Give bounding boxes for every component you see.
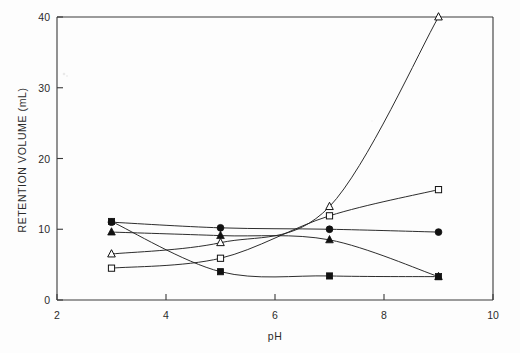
x-tick-label-6: 6	[272, 309, 278, 321]
data-point-filled-square-ph7	[326, 273, 332, 279]
data-point-filled-circle-ph5	[217, 224, 224, 231]
data-point-filled-circle-ph9	[435, 229, 442, 236]
data-point-open-square-ph3	[108, 265, 114, 271]
x-tick-label-2: 2	[54, 309, 60, 321]
y-tick-label-30: 30	[38, 82, 50, 94]
x-tick-label-4: 4	[163, 309, 169, 321]
y-tick-label-20: 20	[38, 153, 50, 165]
data-point-filled-circle-ph7	[326, 226, 333, 233]
x-tick-label-10: 10	[487, 309, 499, 321]
data-point-open-square-ph5	[217, 255, 223, 261]
y-axis-title: RETENTION VOLUME (mL)	[16, 87, 28, 232]
x-axis-title: pH	[268, 330, 283, 342]
data-point-open-square-ph9	[435, 187, 441, 193]
x-tick-label-8: 8	[381, 309, 387, 321]
data-point-filled-square-ph3	[108, 218, 114, 224]
y-tick-label-10: 10	[38, 223, 50, 235]
chart-figure: 0 10 20 30 40 2 4 6 8 10 pH RETENTION VO…	[0, 0, 520, 353]
y-tick-label-0: 0	[44, 294, 50, 306]
y-tick-label-40: 40	[38, 11, 50, 23]
data-point-filled-square-ph5	[217, 269, 223, 275]
data-point-filled-square-ph9	[435, 274, 441, 280]
retention-volume-vs-ph-plot: 0 10 20 30 40 2 4 6 8 10 pH RETENTION VO…	[0, 0, 520, 353]
data-point-open-square-ph7	[326, 213, 332, 219]
